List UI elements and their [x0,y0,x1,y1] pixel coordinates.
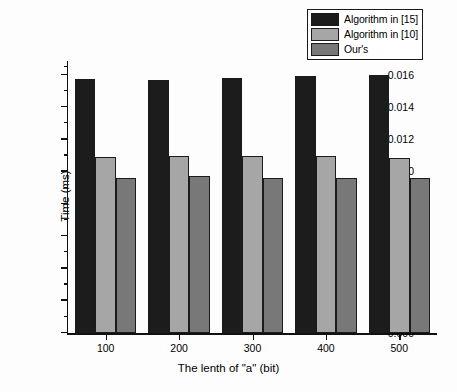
y-axis-line [67,61,69,333]
bar [263,178,284,333]
x-axis-title: The lenth of "a" (bit) [0,362,457,374]
y-tick-minor [64,66,68,67]
y-tick-minor [64,90,68,91]
x-axis-line [67,333,437,335]
y-tick-label: 0.016 [388,70,414,81]
legend-label-ours: Our's [344,44,368,55]
x-tick-major [399,333,400,340]
y-tick-label: 0.012 [388,134,414,145]
y-tick-major [61,106,68,107]
y-tick-major [61,235,68,236]
x-tick-major [106,333,107,340]
legend-swatch-algorithm-10 [311,28,339,41]
bar [295,76,316,333]
bar [75,79,96,333]
y-tick-major [61,203,68,204]
bar [189,176,210,333]
y-tick-major [61,170,68,171]
x-tick-label: 300 [244,343,262,354]
bar [116,178,137,333]
bar [222,78,243,333]
legend-label-algorithm-10: Algorithm in [10] [344,29,418,40]
x-tick-major [179,333,180,340]
y-tick-minor [64,283,68,284]
y-tick-minor [64,251,68,252]
x-tick-label: 200 [170,343,188,354]
legend-swatch-ours [311,43,339,56]
y-tick-minor [64,154,68,155]
y-tick-minor [64,219,68,220]
legend-item-algorithm-10: Algorithm in [10] [311,27,418,42]
y-tick-major [61,332,68,333]
legend-item-algorithm-15: Algorithm in [15] [311,12,418,27]
bar-chart-figure: Algorithm in [15] Algorithm in [10] Our'… [0,0,457,392]
x-tick-label: 400 [317,343,335,354]
legend-item-ours: Our's [311,42,418,57]
x-tick-label: 500 [391,343,409,354]
y-tick-minor [64,187,68,188]
bar [336,178,357,333]
legend-label-algorithm-15: Algorithm in [15] [344,14,418,25]
y-tick-minor [64,316,68,317]
bar [389,158,410,333]
x-tick-major [326,333,327,340]
y-tick-minor [64,122,68,123]
legend-swatch-algorithm-15 [311,13,339,26]
bar [95,157,116,333]
y-tick-label: 0.014 [388,102,414,113]
bar [316,156,337,333]
plot-area: 0.0000.0020.0040.0060.0080.0100.0120.014… [68,75,435,333]
y-tick-major [61,138,68,139]
x-tick-label: 100 [97,343,115,354]
bar [410,178,431,333]
bar [242,156,263,333]
bar [369,75,390,333]
y-tick-major [61,74,68,75]
x-tick-major [253,333,254,340]
y-tick-major [61,267,68,268]
chart-legend: Algorithm in [15] Algorithm in [10] Our'… [307,9,423,60]
y-tick-major [61,299,68,300]
bar [169,156,190,333]
bar [148,80,169,333]
